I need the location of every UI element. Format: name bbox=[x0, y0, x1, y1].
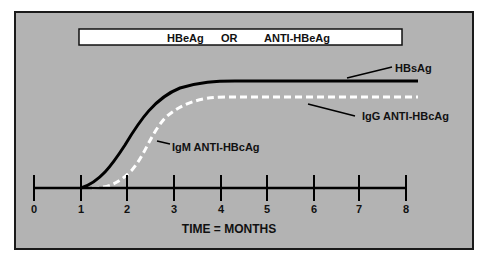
tick-label-3: 3 bbox=[171, 203, 177, 215]
igg-label: IgG ANTI-HBcAg bbox=[362, 110, 449, 122]
serology-diagram: HBeAg OR ANTI-HBeAg HBsAg IgG ANTI-HBcAg… bbox=[0, 0, 485, 264]
header-box: HBeAg OR ANTI-HBeAg bbox=[79, 29, 402, 45]
hbsag-label: HBsAg bbox=[395, 62, 432, 74]
tick-label-6: 6 bbox=[311, 203, 317, 215]
header-or-label: OR bbox=[221, 32, 238, 44]
tick-label-4: 4 bbox=[218, 203, 225, 215]
time-axis bbox=[34, 175, 406, 201]
header-anti-hbeag-label: ANTI-HBeAg bbox=[264, 32, 330, 44]
tick-label-0: 0 bbox=[31, 203, 37, 215]
tick-label-2: 2 bbox=[124, 203, 130, 215]
axis-title: TIME = MONTHS bbox=[182, 222, 276, 236]
hbsag-pointer-line bbox=[347, 67, 392, 78]
tick-label-8: 8 bbox=[403, 203, 409, 215]
tick-label-7: 7 bbox=[356, 203, 362, 215]
igm-pointer-line bbox=[157, 141, 170, 144]
axis-tick-labels: 0 1 2 3 4 5 6 7 8 bbox=[31, 203, 409, 215]
igg-pointer-line bbox=[308, 104, 355, 116]
igm-label: IgM ANTI-HBcAg bbox=[172, 141, 260, 153]
header-hbeag-label: HBeAg bbox=[167, 32, 204, 44]
tick-label-1: 1 bbox=[78, 203, 84, 215]
tick-label-5: 5 bbox=[264, 203, 270, 215]
